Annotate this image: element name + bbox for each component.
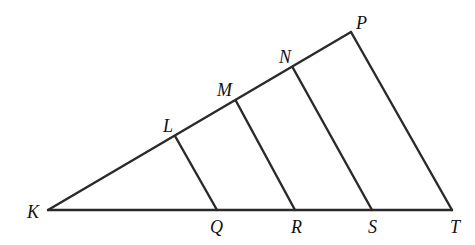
vertex-label-Q: Q — [210, 218, 223, 236]
vertex-label-K: K — [27, 203, 39, 221]
segment-MR — [236, 101, 295, 210]
triangle-diagram: K L M N P Q R S T — [0, 0, 475, 245]
vertex-label-P: P — [356, 14, 367, 32]
vertex-label-R: R — [291, 218, 302, 236]
vertex-label-L: L — [163, 117, 173, 135]
segment-LQ — [175, 136, 217, 210]
diagram-lines — [0, 0, 475, 245]
segment-KP — [48, 32, 351, 210]
vertex-label-T: T — [450, 218, 460, 236]
segment-PT — [351, 32, 452, 210]
vertex-label-N: N — [279, 48, 291, 66]
vertex-label-M: M — [217, 81, 232, 99]
vertex-label-S: S — [368, 218, 377, 236]
segment-NS — [293, 68, 372, 210]
